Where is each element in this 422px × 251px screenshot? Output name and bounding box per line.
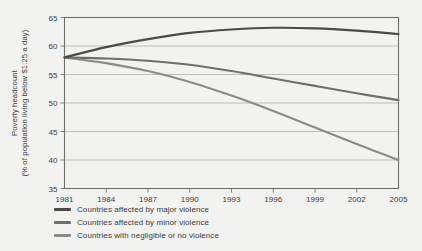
series-line	[65, 57, 399, 160]
legend-color-swatch	[54, 221, 71, 224]
y-axis-tick-label: 35	[49, 185, 58, 194]
legend-item[interactable]: Countries affected by major violence	[54, 203, 384, 216]
legend-item-label: Countries with negligible or no violence	[77, 231, 219, 240]
y-axis-title-line-1: Poverty headcount	[10, 8, 20, 198]
data-series-group	[65, 28, 399, 160]
y-axis-tick-label: 55	[49, 71, 58, 80]
y-axis-title-line-2: (% of population living below $1.25 a da…	[20, 8, 30, 198]
legend-item-label: Countries affected by minor violence	[77, 218, 209, 227]
chart-legend: Countries affected by major violenceCoun…	[54, 203, 384, 242]
y-axis-tick-label: 60	[49, 42, 58, 51]
x-axis-ticks-group: 198119841987199019931996199920022005	[56, 189, 408, 204]
y-axis-ticks-group: 35404550556065	[49, 14, 65, 194]
x-axis-tick-label: 2005	[390, 195, 408, 204]
legend-item[interactable]: Countries with negligible or no violence	[54, 229, 384, 242]
gridlines-group	[65, 46, 399, 160]
y-axis-tick-label: 65	[49, 14, 58, 23]
legend-item-label: Countries affected by major violence	[77, 205, 209, 214]
y-axis-tick-label: 40	[49, 156, 58, 165]
y-axis-tick-label: 45	[49, 128, 58, 137]
legend-color-swatch	[54, 234, 71, 237]
chart-figure: Poverty headcount (% of population livin…	[0, 0, 422, 251]
y-axis-title: Poverty headcount (% of population livin…	[10, 8, 34, 198]
legend-color-swatch	[54, 208, 71, 211]
y-axis-tick-label: 50	[49, 99, 58, 108]
legend-item[interactable]: Countries affected by minor violence	[54, 216, 384, 229]
series-line	[65, 28, 399, 58]
